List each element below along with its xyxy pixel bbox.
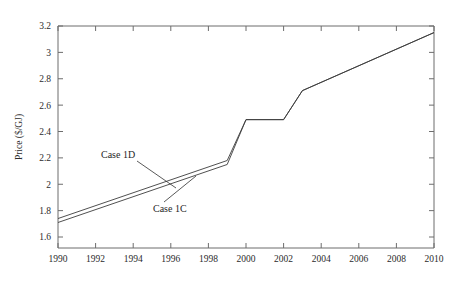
y-tick-label: 1.8 [39,206,51,216]
y-tick-label: 2.4 [39,127,51,137]
y-tick-label: 2.2 [39,153,51,163]
data-series-group [58,33,434,223]
y-tick-label: 2.6 [39,101,51,111]
x-tick-label: 1992 [86,254,105,264]
chart-page: 1.61.822.22.42.62.833.2 1990199219941996… [0,0,454,283]
y-tick-label: 1.6 [39,232,51,242]
price-projection-line-chart: 1.61.822.22.42.62.833.2 1990199219941996… [0,0,454,283]
x-tick-label: 2002 [274,254,293,264]
axis-frame [58,26,434,248]
leader-line-case-1c [164,176,196,202]
x-tick-label: 1996 [161,254,180,264]
y-tick-label: 3 [46,48,51,58]
series-line-case-1c [58,33,434,223]
x-tick-label: 2004 [312,254,331,264]
y-axis-title: Price ($/GJ) [14,114,25,160]
leader-line-case-1d [137,161,176,188]
x-tick-label: 2008 [387,254,406,264]
x-tick-label: 2000 [237,254,256,264]
series-line-case-1d [58,33,434,219]
y-tick-label: 3.2 [39,21,51,31]
x-tick-label: 1994 [124,254,143,264]
x-tick-label: 1990 [49,254,68,264]
annotation-case-1d: Case 1D [101,149,135,160]
x-tick-label: 1998 [199,254,218,264]
y-tick-label: 2 [46,180,51,190]
x-axis-ticks: 1990199219941996199820002002200420062008… [49,26,444,264]
y-tick-label: 2.8 [39,74,51,84]
x-tick-label: 2006 [349,254,368,264]
y-axis-ticks: 1.61.822.22.42.62.833.2 [39,21,434,242]
x-tick-label: 2010 [425,254,444,264]
annotation-case-1c: Case 1C [153,203,187,214]
